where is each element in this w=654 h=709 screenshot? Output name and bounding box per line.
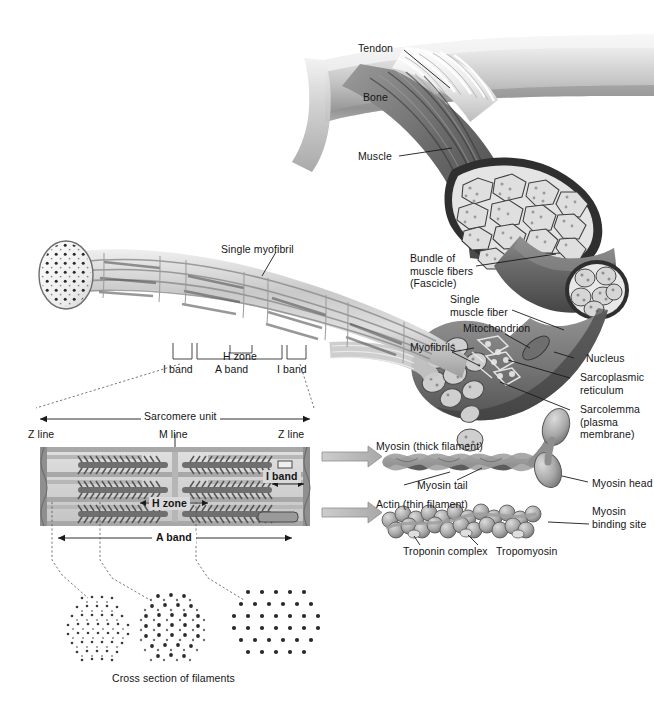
bone-lower-branch (292, 58, 331, 172)
cross-section-2 (140, 593, 205, 661)
label-i-band-sarcomere: I band (263, 470, 301, 483)
label-muscle: Muscle (358, 150, 392, 163)
label-sarcomere-unit: Sarcomere unit (141, 410, 220, 423)
label-troponin-complex: Troponin complex (403, 545, 488, 558)
label-myosin-binding-site: Myosin binding site (592, 505, 646, 530)
label-mitochondrion: Mitochondrion (463, 322, 530, 335)
label-i-band-right: I band (277, 363, 307, 376)
label-a-band-myofibril: A band (215, 363, 248, 376)
label-h-zone-sarcomere: H zone (149, 497, 190, 510)
myosin-head-shape (530, 405, 574, 491)
label-tendon: Tendon (358, 42, 393, 55)
caption-cross-section: Cross section of filaments (112, 672, 235, 685)
label-nucleus: Nucleus (586, 352, 625, 365)
label-bundle-of-muscle-fibers: Bundle of muscle fibers (Fascicle) (410, 252, 473, 290)
label-bone: Bone (363, 91, 388, 104)
label-m-line: M line (159, 428, 188, 441)
cross-section-3 (232, 590, 320, 654)
label-h-zone-myofibril: H zone (223, 350, 257, 363)
label-single-myofibril: Single myofibril (221, 243, 294, 256)
myosin-tail-helix (388, 458, 532, 466)
label-a-band-sarcomere: A band (152, 531, 196, 544)
label-z-line-left: Z line (28, 428, 54, 441)
label-single-muscle-fiber: Single muscle fiber (450, 293, 508, 318)
label-sarcolemma: Sarcolemma (plasma membrane) (580, 403, 640, 441)
muscle-anatomy-figure: Tendon Bone Muscle Bundle of muscle fibe… (0, 0, 654, 709)
cross-section-1 (67, 596, 130, 662)
label-tropomyosin: Tropomyosin (496, 545, 557, 558)
detail-arrows (322, 446, 382, 523)
label-actin-thin-filament: Actin (thin filament) (376, 498, 468, 511)
label-myofibrils: Myofibrils (410, 341, 455, 354)
label-myosin-tail: Myosin tail (417, 479, 468, 492)
label-myosin-thick-filament: Myosin (thick filament) (376, 440, 483, 453)
label-z-line-right: Z line (278, 428, 304, 441)
figure-canvas (0, 0, 654, 709)
label-myosin-head: Myosin head (592, 477, 653, 490)
label-sarcoplasmic-reticulum: Sarcoplasmic reticulum (580, 371, 644, 396)
label-i-band-left: I band (163, 363, 193, 376)
